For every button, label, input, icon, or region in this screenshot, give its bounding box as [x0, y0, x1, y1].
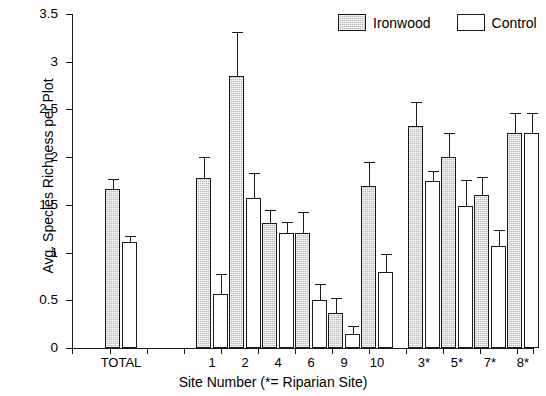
bar-ironwood — [196, 178, 211, 348]
error-bar-cap — [265, 210, 276, 211]
y-tick-label: 0 — [0, 341, 58, 355]
error-bar-line — [466, 180, 467, 206]
bar-control — [458, 206, 473, 348]
bar-control — [524, 133, 539, 348]
x-tick — [406, 348, 407, 354]
y-axis-title: Avg. Species Richness per Plot — [40, 36, 56, 316]
error-bar-line — [320, 284, 321, 300]
error-bar-line — [221, 274, 222, 294]
error-bar-line — [532, 113, 533, 133]
error-bar-cap — [527, 113, 538, 114]
bar-ironwood — [262, 223, 277, 348]
error-bar-line — [113, 179, 114, 189]
bar-control — [491, 246, 506, 348]
error-bar-line — [254, 173, 255, 198]
x-tick — [147, 348, 148, 354]
x-tick — [72, 348, 73, 354]
error-bar-line — [237, 32, 238, 76]
error-bar-cap — [510, 113, 521, 114]
bar-ironwood — [441, 157, 456, 348]
error-bar-cap — [477, 177, 488, 178]
error-bar-line — [515, 113, 516, 133]
bar-ironwood — [474, 195, 489, 348]
error-bar-cap — [216, 274, 227, 275]
x-tick — [332, 348, 333, 354]
x-tick — [221, 348, 222, 354]
x-tick — [533, 348, 534, 354]
error-bar-cap — [428, 171, 439, 172]
x-tick — [369, 348, 370, 354]
error-bar-line — [353, 326, 354, 334]
error-bar-line — [204, 157, 205, 178]
error-bar-line — [369, 162, 370, 186]
error-bar-line — [499, 230, 500, 246]
bar-control — [378, 272, 393, 348]
x-tick — [258, 348, 259, 354]
x-tick — [184, 348, 185, 354]
error-bar-cap — [364, 162, 375, 163]
error-bar-cap — [125, 236, 136, 237]
error-bar-cap — [348, 326, 359, 327]
bar-control — [213, 294, 228, 348]
bar-control — [122, 242, 137, 348]
error-bar-cap — [199, 157, 210, 158]
error-bar-cap — [411, 102, 422, 103]
bar-ironwood — [361, 186, 376, 348]
bar-control — [279, 233, 294, 348]
bar-control — [345, 334, 360, 348]
error-bar-cap — [108, 179, 119, 180]
error-bar-line — [270, 210, 271, 223]
bar-control — [425, 181, 440, 348]
error-bar-cap — [249, 173, 260, 174]
error-bar-cap — [444, 133, 455, 134]
error-bar-cap — [315, 284, 326, 285]
error-bar-line — [482, 177, 483, 195]
bar-ironwood — [105, 189, 120, 348]
x-category-label: 8* — [483, 356, 546, 369]
error-bar-line — [386, 254, 387, 271]
error-bar-line — [287, 222, 288, 232]
bar-ironwood — [229, 76, 244, 348]
error-bar-line — [433, 171, 434, 181]
error-bar-cap — [461, 180, 472, 181]
bar-ironwood — [295, 233, 310, 348]
error-bar-cap — [331, 298, 342, 299]
error-bar-cap — [298, 212, 309, 213]
x-tick — [517, 348, 518, 354]
error-bar-cap — [381, 254, 392, 255]
error-bar-line — [416, 102, 417, 126]
bar-chart: Ironwood Control 00.511.522.533.5 TOTAL1… — [0, 0, 546, 396]
error-bar-line — [303, 212, 304, 232]
bar-ironwood — [507, 133, 522, 348]
x-tick — [443, 348, 444, 354]
x-tick — [480, 348, 481, 354]
y-tick-label: 3.5 — [0, 7, 58, 21]
error-bar-cap — [282, 222, 293, 223]
error-bar-cap — [494, 230, 505, 231]
error-bar-line — [336, 298, 337, 312]
bar-control — [312, 300, 327, 348]
plot-area — [72, 14, 532, 348]
bar-ironwood — [408, 126, 423, 348]
x-tick — [110, 348, 111, 354]
x-axis-line — [72, 348, 534, 349]
error-bar-cap — [232, 32, 243, 33]
bar-ironwood — [328, 313, 343, 348]
x-axis-title: Site Number (*= Riparian Site) — [0, 374, 546, 390]
bar-control — [246, 198, 261, 348]
x-category-label: TOTAL — [81, 356, 161, 369]
x-tick — [295, 348, 296, 354]
error-bar-line — [449, 133, 450, 157]
